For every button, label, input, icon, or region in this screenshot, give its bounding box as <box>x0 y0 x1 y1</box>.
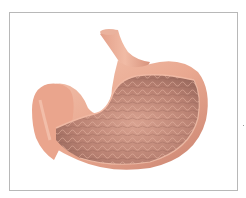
scan-artifact <box>243 125 244 126</box>
stomach-illustration <box>0 0 246 198</box>
